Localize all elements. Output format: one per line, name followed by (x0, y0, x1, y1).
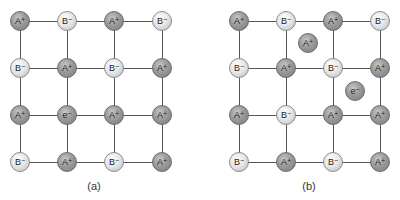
lattice-ion-cation: A+ (276, 58, 296, 78)
lattice-ion-cation: A+ (370, 105, 390, 125)
lattice-ion-anion: B− (10, 58, 30, 78)
lattice-ion-cation: A+ (229, 11, 249, 31)
lattice-ion-cation: A+ (10, 11, 30, 31)
lattice-ion-cation: A+ (323, 105, 343, 125)
lattice-ion-anion: B− (152, 11, 172, 31)
lattice-ion-cation: A+ (104, 11, 124, 31)
lattice-ion-cation: A+ (276, 152, 296, 172)
lattice-ion-anion: B− (229, 152, 249, 172)
bond-line-vertical (114, 21, 115, 162)
lattice-ion-electron: e− (57, 105, 77, 125)
interstitial-cation: A+ (298, 33, 318, 53)
lattice-ion-cation: A+ (152, 105, 172, 125)
bond-line-horizontal (239, 115, 380, 116)
bond-line-vertical (239, 21, 240, 162)
bond-line-vertical (20, 21, 21, 162)
lattice-ion-cation: A+ (57, 58, 77, 78)
lattice-ion-cation: A+ (323, 11, 343, 31)
lattice-ion-cation: A+ (229, 105, 249, 125)
lattice-ion-anion: B− (323, 152, 343, 172)
bond-line-vertical (286, 21, 287, 162)
lattice-ion-cation: A+ (57, 152, 77, 172)
lattice-ion-cation: A+ (370, 58, 390, 78)
lattice-ion-cation: A+ (152, 58, 172, 78)
lattice-ion-anion: B− (104, 58, 124, 78)
lattice-ion-anion: B− (104, 152, 124, 172)
bond-line-horizontal (239, 162, 380, 163)
lattice-ion-cation: A+ (370, 152, 390, 172)
lattice-ion-anion: B− (229, 58, 249, 78)
lattice-ion-cation: A+ (10, 105, 30, 125)
bond-line-horizontal (20, 115, 162, 116)
lattice-ion-anion: B− (57, 11, 77, 31)
lattice-ion-anion: B− (276, 105, 296, 125)
caption-a: (a) (87, 180, 100, 192)
bond-line-vertical (162, 21, 163, 162)
caption-b: (b) (302, 180, 315, 192)
bond-line-vertical (380, 21, 381, 162)
bond-line-horizontal (20, 68, 162, 69)
interstitial-electron: e− (345, 81, 365, 101)
bond-line-horizontal (20, 21, 162, 22)
lattice-ion-anion: B− (370, 11, 390, 31)
bond-line-vertical (333, 21, 334, 162)
lattice-ion-anion: B− (323, 58, 343, 78)
bond-line-horizontal (239, 21, 380, 22)
lattice-ion-anion: B− (276, 11, 296, 31)
lattice-ion-cation: A+ (152, 152, 172, 172)
lattice-ion-cation: A+ (104, 105, 124, 125)
bond-line-horizontal (239, 68, 380, 69)
bond-line-vertical (67, 21, 68, 162)
lattice-ion-anion: B− (10, 152, 30, 172)
bond-line-horizontal (20, 162, 162, 163)
